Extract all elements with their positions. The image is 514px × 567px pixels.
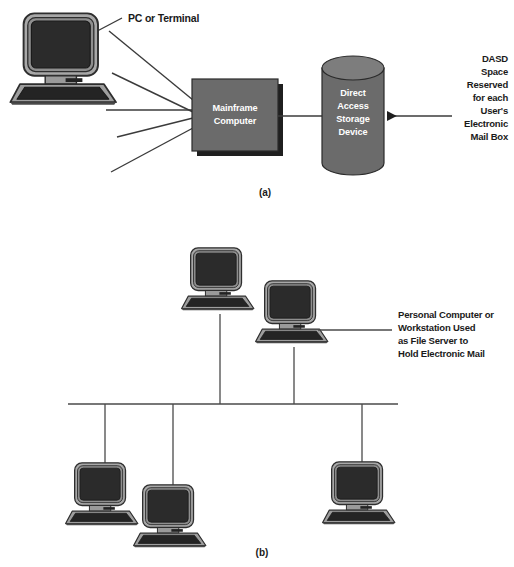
server-callout-line-2: Workstation Used (398, 322, 476, 333)
dasd-cylinder: Direct Access Storage Device (322, 56, 384, 175)
figure-root: PC or Terminal Mainframe Computer Direct… (0, 0, 514, 567)
dasd-callout-line-2: Space (481, 66, 508, 77)
dasd-callout-line-1: DASD (482, 53, 508, 64)
caption-a: (a) (259, 187, 271, 198)
caption-b: (b) (256, 547, 269, 558)
pc-terminal-label: PC or Terminal (128, 12, 199, 24)
mainframe-box (192, 79, 278, 151)
dasd-label-line3: Storage (336, 114, 370, 124)
panel-b: Personal Computer or Workstation Used as… (66, 248, 495, 558)
server-callout-text: Personal Computer or Workstation Used as… (398, 309, 494, 359)
file-server-workstation (256, 281, 328, 343)
dasd-callout-line-7: Mail Box (471, 131, 509, 142)
dasd-label-line1: Direct (340, 88, 365, 98)
panel-a: PC or Terminal Mainframe Computer Direct… (10, 12, 509, 198)
dasd-callout-line-5: User's (481, 105, 508, 116)
network-diagram: PC or Terminal Mainframe Computer Direct… (0, 0, 514, 567)
dasd-callout-text: DASD Space Reserved for each User's Elec… (464, 53, 509, 142)
mainframe-label-line1: Mainframe (212, 103, 257, 113)
terminal-line-2 (112, 73, 193, 112)
workstation-bottom-center (134, 485, 206, 547)
server-callout-line-3: as File Server to (398, 335, 468, 346)
dasd-callout-line-6: Electronic (464, 118, 508, 129)
server-callout-line-1: Personal Computer or (398, 309, 494, 320)
workstation-bottom-left (66, 463, 138, 525)
dasd-top (322, 56, 384, 80)
workstation-top-center (182, 248, 254, 310)
dasd-callout-line-4: for each (473, 92, 509, 103)
mainframe-label-line2: Computer (214, 116, 257, 126)
dasd-label-line2: Access (337, 101, 369, 111)
terminal-line-1 (109, 31, 193, 100)
dasd-label-line4: Device (338, 127, 367, 137)
terminal-line-5 (111, 128, 193, 172)
workstation-bottom-right (323, 462, 395, 524)
terminal-connection-lines (106, 31, 193, 172)
pc-terminal-icon (10, 13, 116, 104)
mainframe-node: Mainframe Computer (192, 79, 283, 156)
server-callout-line-4: Hold Electronic Mail (398, 348, 485, 359)
dasd-callout-line-3: Reserved (467, 79, 509, 90)
